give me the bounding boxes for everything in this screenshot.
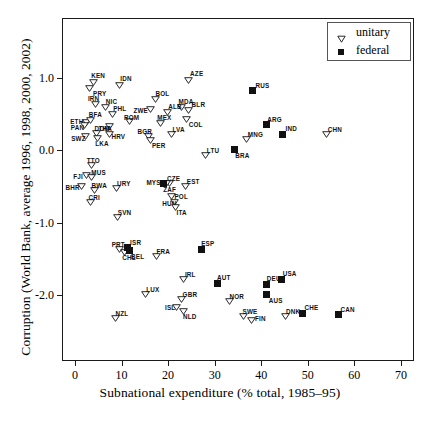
- data-point-label: BOL: [156, 90, 170, 97]
- x-tick: [308, 361, 309, 366]
- data-point-label: BGR: [138, 128, 153, 135]
- data-point-label: MYS: [146, 179, 160, 186]
- data-point-label: TTO: [87, 157, 100, 164]
- x-tick: [354, 361, 355, 366]
- y-tick: [57, 295, 62, 296]
- data-point-label: LKA: [95, 140, 109, 147]
- data-point-label: NLD: [183, 313, 197, 320]
- filled-square-icon: [160, 180, 167, 187]
- data-point-label: LUX: [146, 286, 159, 293]
- data-point-label: NOR: [230, 293, 245, 300]
- data-point-label: MNG: [248, 131, 263, 138]
- data-point-label: ROM: [124, 114, 139, 121]
- data-point-label: HRV: [111, 133, 125, 140]
- data-point-label: LTU: [207, 147, 219, 154]
- data-point-label: MEX: [157, 114, 171, 121]
- data-point-label: FJI: [73, 173, 83, 180]
- x-tick: [215, 361, 216, 366]
- open-triangle-down-icon: [91, 101, 100, 108]
- data-point-label: AZE: [190, 70, 203, 77]
- data-point-label: DNK: [286, 308, 300, 315]
- data-point-label: FRA: [157, 248, 171, 255]
- data-point-label: URY: [117, 180, 131, 187]
- x-tick: [75, 361, 76, 366]
- scatter-chart-figure: 0102030405060701.00.0-1.0-2.0 KENPRYIDNA…: [0, 0, 423, 430]
- data-point-label: FIN: [255, 315, 266, 322]
- legend: unitary federal: [327, 22, 411, 61]
- x-tick: [261, 361, 262, 366]
- y-tick: [57, 223, 62, 224]
- data-point-label: ISL: [165, 304, 175, 311]
- data-point-label: IDN: [120, 75, 131, 82]
- open-triangle-down-icon: [151, 96, 160, 103]
- open-triangle-down-icon: [184, 77, 193, 84]
- legend-label-unitary: unitary: [356, 24, 390, 41]
- legend-item-federal: federal: [328, 42, 410, 59]
- data-point-label: SWZ: [71, 135, 86, 142]
- data-point-label: IRN: [88, 95, 99, 102]
- data-point-label: MUS: [91, 169, 106, 176]
- data-point-label: BWA: [92, 182, 107, 189]
- x-tick-label: 50: [293, 368, 323, 382]
- y-tick: [57, 150, 62, 151]
- legend-item-unitary: unitary: [328, 24, 410, 41]
- open-triangle-down-icon: [156, 120, 165, 127]
- data-point-label: SVN: [118, 209, 132, 216]
- open-triangle-down-icon: [337, 29, 346, 37]
- x-tick: [168, 361, 169, 366]
- data-point-label: BRA: [235, 152, 249, 159]
- data-point-label: GBR: [183, 291, 198, 298]
- x-tick-label: 40: [246, 368, 276, 382]
- open-triangle-down-icon: [184, 107, 193, 114]
- y-axis-title: Corruption (World Bank, average 1996, 19…: [18, 27, 34, 367]
- data-point-label: RUS: [255, 82, 269, 89]
- open-triangle-down-icon: [101, 104, 110, 111]
- legend-label-federal: federal: [356, 42, 389, 59]
- data-point-label: SWE: [243, 308, 258, 315]
- data-point-label: BEL: [131, 253, 144, 260]
- data-point-label: ESP: [201, 240, 214, 247]
- data-point-label: AUS: [269, 297, 283, 304]
- data-point-label: ARG: [267, 116, 282, 123]
- data-point-label: ZWE: [133, 107, 148, 114]
- data-point-label: NIC: [106, 98, 117, 105]
- data-point-label: PHL: [113, 105, 126, 112]
- data-point-label: BHR: [66, 184, 80, 191]
- data-point-label: USA: [283, 270, 297, 277]
- data-point-label: PER: [152, 142, 166, 149]
- x-tick-label: 20: [153, 368, 183, 382]
- data-point-label: ISR: [130, 239, 141, 246]
- open-triangle-down-icon: [108, 111, 117, 118]
- data-point-label: CAN: [341, 306, 355, 313]
- open-triangle-down-icon: [115, 82, 124, 89]
- x-tick: [401, 361, 402, 366]
- x-tick-label: 70: [386, 368, 416, 382]
- data-point-label: ITA: [177, 209, 187, 216]
- x-tick-label: 30: [200, 368, 230, 382]
- x-tick-label: 60: [339, 368, 369, 382]
- data-point-label: PAN: [71, 124, 84, 131]
- data-point-label: NZL: [116, 310, 129, 317]
- x-tick-label: 0: [60, 368, 90, 382]
- data-point-label: IND: [286, 125, 297, 132]
- data-point-label: KEN: [91, 72, 105, 79]
- filled-square-icon: [337, 47, 346, 55]
- x-tick: [122, 361, 123, 366]
- data-point-label: CHN: [328, 126, 342, 133]
- data-point-label: ALB: [168, 103, 182, 110]
- data-point-label: IRL: [185, 271, 196, 278]
- data-point-label: BFA: [89, 111, 102, 118]
- x-axis-title: Subnational expenditure (% total, 1985–9…: [40, 385, 400, 401]
- data-point-label: BLR: [192, 101, 206, 108]
- data-point-label: AUT: [217, 274, 231, 281]
- x-tick-label: 10: [107, 368, 137, 382]
- y-tick: [57, 78, 62, 79]
- data-point-label: EST: [187, 178, 200, 185]
- data-point-label: CRI: [88, 194, 99, 201]
- data-point-label: CHE: [305, 304, 319, 311]
- data-point-label: COL: [189, 121, 203, 128]
- data-point-label: LVA: [172, 126, 184, 133]
